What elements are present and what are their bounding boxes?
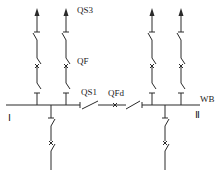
- label-qs3: QS3: [77, 5, 94, 15]
- label-section-2: Ⅱ: [195, 109, 200, 120]
- outgoing-feeder-1: [33, 8, 41, 105]
- label-qs1: QS1: [81, 87, 97, 97]
- outgoing-feeder-4: [177, 8, 185, 105]
- label-wb: WB: [200, 94, 215, 104]
- label-qf: QF: [77, 56, 89, 66]
- incoming-feeder-2: [162, 105, 169, 170]
- incoming-feeder-1: [48, 105, 55, 170]
- outgoing-feeder-2: [62, 8, 70, 105]
- single-line-diagram: QS3 QF QS1 QFd WB Ⅰ Ⅱ: [0, 0, 220, 180]
- bus-tie: [80, 101, 142, 109]
- outgoing-feeder-3: [148, 8, 156, 105]
- label-section-1: Ⅰ: [8, 112, 11, 123]
- label-qfd: QFd: [108, 88, 125, 98]
